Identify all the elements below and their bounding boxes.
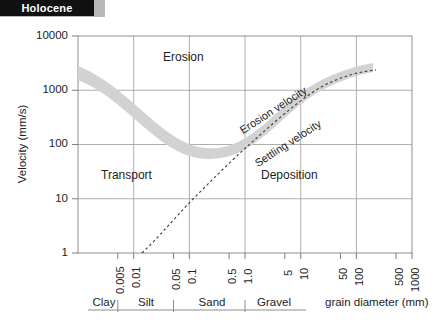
grain-class-sand: Sand [196, 296, 228, 308]
x-tick-label-10: 10 [298, 268, 310, 280]
x-tick-label-0-01: 0.01 [130, 267, 142, 288]
x-tick-label-0-1: 0.1 [186, 269, 198, 284]
x-axis-title: grain diameter (mm) [325, 296, 429, 308]
grain-class-silt: Silt [132, 296, 160, 308]
annotation-deposition: Deposition [261, 168, 318, 182]
x-tick-label-100: 100 [353, 268, 365, 286]
y-tick-label-10: 10 [20, 192, 68, 204]
x-tick-label-500: 500 [393, 268, 405, 286]
y-tick-marks [72, 36, 78, 253]
y-tick-label-1: 1 [20, 246, 68, 258]
y-tick-label-100: 100 [20, 137, 68, 149]
x-tick-label-1000: 1000 [409, 268, 421, 292]
grain-class-clay: Clay [90, 296, 118, 308]
annotation-erosion: Erosion [163, 50, 204, 64]
x-tick-label-1-0: 1.0 [242, 269, 254, 284]
x-tick-label-0-5: 0.5 [226, 269, 238, 284]
annotation-transport: Transport [101, 168, 152, 182]
hjulstrom-diagram-page: Holocene [0, 0, 436, 332]
chart-canvas [0, 0, 436, 332]
chart-figure: Velocity (mm/s) 10000 1000 100 10 1 0.00… [0, 0, 436, 332]
grain-class-gravel: Gravel [252, 296, 296, 308]
x-tick-label-0-005: 0.005 [114, 266, 126, 294]
x-tick-label-0-05: 0.05 [170, 269, 182, 290]
x-tick-marks [118, 253, 412, 259]
y-tick-label-1000: 1000 [20, 83, 68, 95]
y-tick-label-10000: 10000 [20, 29, 68, 41]
x-tick-label-5: 5 [282, 270, 294, 276]
x-tick-label-50: 50 [337, 268, 349, 280]
